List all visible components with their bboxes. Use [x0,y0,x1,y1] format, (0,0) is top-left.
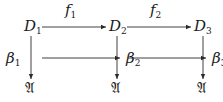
arrowhead-icon [186,25,191,29]
symbol-subscript: 1 [71,10,77,20]
f1-label: f1 [65,3,76,20]
fraktur-a-node: 𝔄 [197,81,206,95]
arrow-beta1-side-to-beta2 [42,56,120,60]
arrow-d1-to-a1 [29,36,33,79]
beta3-label: β3 [212,51,223,68]
arrow-d2-to-d3 [127,25,191,29]
arrow-d1-to-d2 [42,25,106,29]
arrowhead-icon [115,56,120,60]
symbol-base: D [109,17,121,35]
arrowhead-icon [101,25,106,29]
symbol-base: β [126,49,135,67]
beta2-label: β2 [126,51,140,68]
symbol-subscript: 3 [206,26,212,36]
symbol-subscript: 1 [36,26,42,36]
symbol-base: D [194,17,206,35]
arrowhead-icon [29,74,33,79]
fraktur-a-node: 𝔄 [111,81,120,95]
symbol-subscript: 2 [135,58,141,68]
d1-label: D1 [24,19,42,36]
symbol-subscript: 1 [15,58,21,68]
fraktur-a-node: 𝔄 [25,81,34,95]
symbol-subscript: 2 [121,26,127,36]
symbol-base: β [6,49,15,67]
symbol-subscript: 3 [221,58,223,68]
d2-label: D2 [109,19,127,36]
commutative-diagram: D1D2D3𝔄𝔄𝔄β2β3f1f2β1 [0,0,223,102]
symbol-base: D [24,17,36,35]
symbol-base: β [212,49,221,67]
beta1-label: β1 [6,51,20,68]
d3-label: D3 [194,19,212,36]
symbol-subscript: 2 [156,10,162,20]
arrowhead-icon [201,56,206,60]
arrowhead-icon [201,74,205,79]
f2-label: f2 [150,3,161,20]
arrowhead-icon [115,74,119,79]
